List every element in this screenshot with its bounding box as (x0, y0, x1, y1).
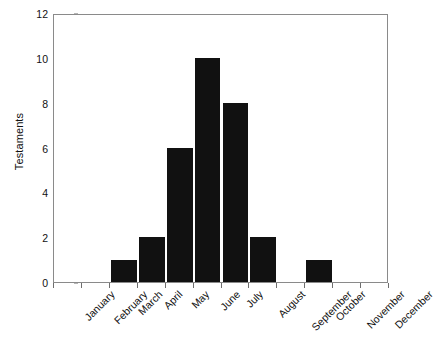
bar-rect-july (223, 103, 249, 282)
y-axis-tick-labels: 024681012 (26, 14, 48, 283)
bar-rect-may (167, 148, 193, 283)
x-axis-tick-labels: JanuaryFebruaryMarchAprilMayJuneJulyAugu… (53, 283, 398, 338)
x-tick-label-june: June (217, 288, 242, 313)
y-tick-label-6: 6 (42, 143, 48, 155)
bars-container (54, 15, 387, 282)
y-tick-label-2: 2 (42, 232, 48, 244)
bar-january (54, 13, 82, 282)
y-tick-label-4: 4 (42, 187, 48, 199)
bar-february (82, 13, 110, 282)
y-tick-label-8: 8 (42, 98, 48, 110)
bar-august (249, 13, 277, 282)
bar-april (138, 13, 166, 282)
bar-july (222, 13, 250, 282)
bar-december (361, 13, 389, 282)
bar-september (277, 13, 305, 282)
bar-october (305, 13, 333, 282)
bar-march (110, 13, 138, 282)
y-tick-label-10: 10 (36, 53, 48, 65)
x-tick-label-may: May (188, 288, 211, 311)
x-tick-label-july: July (244, 288, 266, 310)
bar-november (333, 13, 361, 282)
y-tick-label-0: 0 (42, 277, 48, 289)
y-tick-label-12: 12 (36, 8, 48, 20)
bar-rect-june (195, 58, 221, 282)
bar-rect-april (139, 237, 165, 282)
plot-area (53, 14, 388, 283)
bar-rect-march (111, 260, 137, 282)
x-tick-label-august: August (276, 288, 308, 320)
bar-may (166, 13, 194, 282)
bar-june (194, 13, 222, 282)
bar-rect-october (306, 260, 332, 282)
bar-rect-august (250, 237, 276, 282)
x-tick-label-april: April (161, 288, 184, 311)
